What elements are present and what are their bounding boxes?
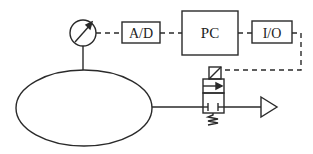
ad-label: A/D: [129, 26, 153, 41]
io-to-valve-line: [221, 33, 301, 70]
pc-label: PC: [201, 25, 219, 41]
io-label: I/O: [263, 26, 282, 41]
pressure-vessel: [16, 70, 152, 146]
solenoid-valve-icon: [203, 67, 224, 125]
pressure-gauge-icon: [70, 20, 96, 46]
pneumatic-diagram: A/D PC I/O: [0, 0, 313, 154]
exhaust-triangle-icon: [261, 97, 277, 117]
